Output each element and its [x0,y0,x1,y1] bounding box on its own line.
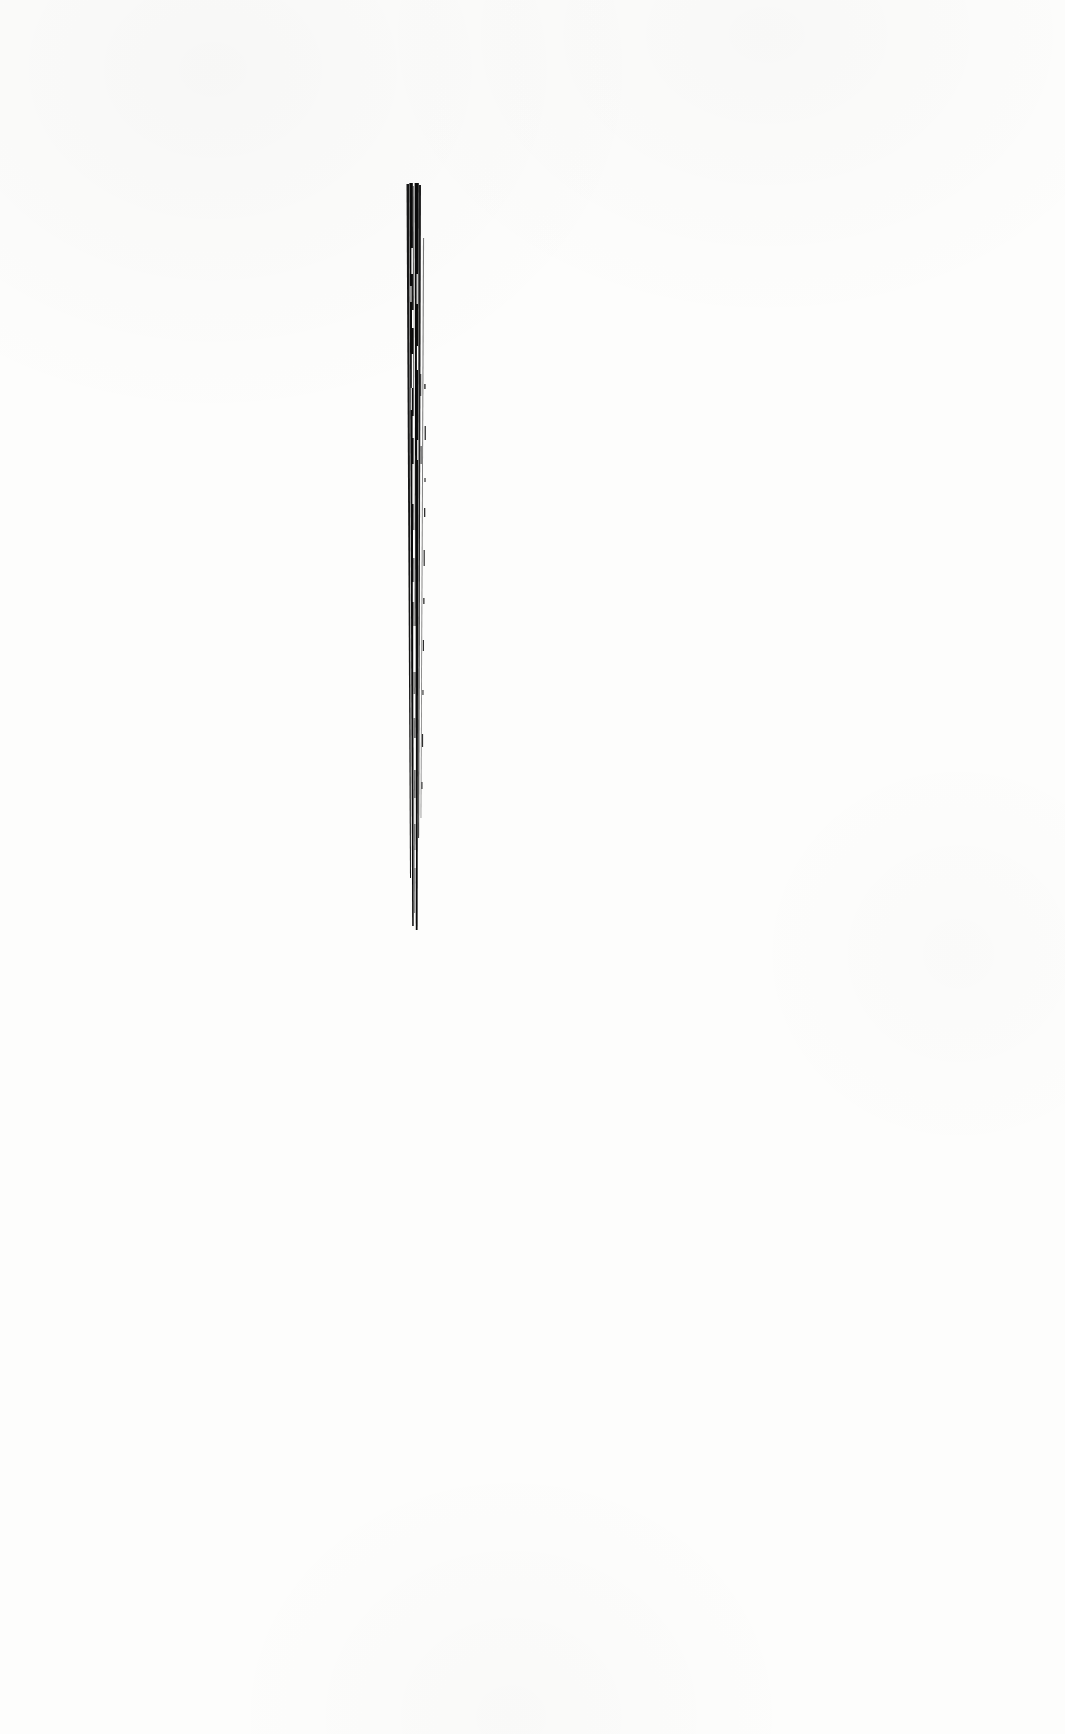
detached-mark [425,426,426,440]
highlight-gap [417,274,418,304]
highlight-gap [414,738,416,770]
detached-mark [424,478,425,482]
highlight-gap [417,440,418,460]
highlight-gap [412,354,413,388]
highlight-gap [417,346,418,370]
detached-mark [423,640,424,651]
detached-mark [424,508,425,517]
figure-vertical-stroke-bundle: Narrow vertical bundle of dense black en… [404,178,514,938]
highlight-gap [413,530,415,558]
detached-mark [421,782,422,789]
detached-mark [421,446,422,464]
detached-mark [420,374,421,396]
highlight-gap [413,582,414,602]
highlight-gap [411,388,412,410]
detached-mark [422,690,423,695]
highlight-gap [414,694,416,718]
highlight-gap [411,248,413,274]
stroke-strand [421,238,425,818]
highlight-gap [414,798,415,824]
detached-mark [423,598,424,604]
detached-mark [424,384,425,389]
figure-svg-canvas [404,178,514,938]
highlight-gap [413,626,415,672]
detached-mark [424,550,425,566]
highlight-gap [412,310,414,328]
highlight-gap [412,464,414,504]
paper-grain-overlay [0,0,1065,1734]
highlight-gap [415,850,416,868]
highlight-gap [410,286,411,302]
highlight-gap [413,416,415,438]
detached-mark [422,734,423,747]
scanned-page: Narrow vertical bundle of dense black en… [0,0,1065,1734]
